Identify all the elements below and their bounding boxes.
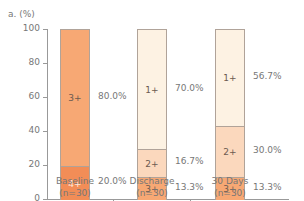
value-label: 16.7%	[175, 156, 204, 166]
value-label: 56.7%	[253, 71, 282, 81]
x-tick	[113, 199, 114, 201]
y-tick	[43, 165, 47, 166]
y-tick-label: 40	[14, 125, 40, 135]
bar-segment-1plus: 1+	[216, 30, 244, 126]
y-tick	[43, 199, 47, 200]
y-tick	[43, 131, 47, 132]
y-tick-label: 80	[14, 57, 40, 67]
category-label: Discharge(n=30)	[117, 175, 187, 199]
y-tick	[43, 29, 47, 30]
y-axis-unit: (%)	[19, 9, 35, 19]
y-tick	[43, 63, 47, 64]
y-tick	[43, 97, 47, 98]
bar-segment-2plus: 2+	[138, 149, 166, 177]
value-label: 30.0%	[253, 145, 282, 155]
y-tick-label: 20	[14, 159, 40, 169]
y-tick-label: 60	[14, 91, 40, 101]
x-tick	[190, 199, 191, 201]
category-label: Baseline(n=30)	[40, 175, 110, 199]
value-label: 80.0%	[98, 91, 127, 101]
y-tick-label: 0	[14, 193, 40, 201]
category-label: 30 Days(n=30)	[195, 175, 265, 199]
value-label: 70.0%	[175, 83, 204, 93]
panel-letter: a.	[8, 9, 16, 19]
panel-label: a. (%)	[8, 9, 35, 19]
bar-segment-2plus: 2+	[216, 126, 244, 177]
bar-segment-3plus: 3+	[61, 30, 89, 166]
bar-segment-1plus: 1+	[138, 30, 166, 149]
y-tick-label: 100	[14, 23, 40, 33]
